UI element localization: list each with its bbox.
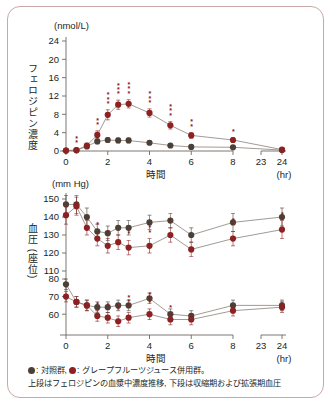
data-point [84, 302, 90, 308]
data-point [73, 299, 79, 305]
svg-text:*: * [169, 304, 172, 311]
caption-legend-line: : 対照群, : グレープフルーツジュース併用群。 [28, 365, 328, 378]
svg-text:0: 0 [63, 156, 68, 167]
svg-text:4: 4 [54, 127, 59, 138]
data-point [188, 144, 194, 150]
data-point [84, 142, 90, 148]
svg-text:8: 8 [230, 156, 235, 167]
data-point [126, 101, 132, 107]
data-point [167, 316, 173, 322]
svg-text:80: 80 [48, 273, 59, 284]
data-point [230, 308, 236, 314]
data-point [115, 318, 121, 324]
svg-text:120: 120 [43, 247, 59, 258]
data-point [63, 281, 69, 287]
data-point [94, 313, 100, 319]
svg-text:2: 2 [105, 156, 110, 167]
data-point [230, 137, 236, 143]
data-point [167, 232, 173, 238]
svg-text:12: 12 [48, 90, 59, 101]
data-point [279, 147, 285, 153]
svg-text:24: 24 [277, 340, 288, 351]
svg-text:*: * [107, 91, 110, 98]
svg-text:(mm Hg): (mm Hg) [52, 178, 89, 189]
data-point [94, 236, 100, 242]
data-point [188, 316, 194, 322]
data-point [73, 147, 79, 153]
svg-text:24: 24 [48, 35, 59, 46]
svg-text:6: 6 [189, 156, 194, 167]
svg-text:130: 130 [43, 229, 59, 240]
svg-text:血圧 (座位): 血圧 (座位) [27, 222, 38, 279]
svg-text:*: * [96, 221, 99, 228]
svg-text:*: * [75, 135, 78, 142]
data-point [63, 147, 69, 153]
data-point [126, 315, 132, 321]
svg-text:*: * [232, 128, 235, 135]
svg-text:*: * [128, 81, 131, 88]
svg-text:8: 8 [230, 340, 235, 351]
data-point [146, 243, 152, 249]
felodipine-concentration-chart: (nmol/L)04812162024024682324フェロジピン濃度****… [18, 15, 318, 175]
svg-text:8: 8 [54, 109, 59, 120]
data-point [84, 225, 90, 231]
svg-text:*: * [190, 118, 193, 125]
data-point [279, 304, 285, 310]
svg-text:0: 0 [54, 145, 59, 156]
data-point [146, 110, 152, 116]
svg-text:(nmol/L): (nmol/L) [54, 20, 89, 31]
felodipine-chart-svg: (nmol/L)04812162024024682324フェロジピン濃度****… [18, 15, 318, 175]
data-point [115, 225, 121, 231]
svg-text:16: 16 [48, 72, 59, 83]
data-point [167, 142, 173, 148]
svg-text:*: * [117, 82, 120, 89]
data-point [94, 132, 100, 138]
figure-caption: : 対照群, : グレープフルーツジュース併用群。 上段はフェロジピンの血漿中濃… [28, 365, 328, 390]
legend-grapefruit-label: : グレープフルーツジュース併用群。 [77, 366, 209, 375]
data-point [115, 137, 121, 143]
svg-text:*: * [96, 117, 99, 124]
data-point [105, 315, 111, 321]
data-point [73, 203, 79, 209]
data-point [188, 232, 194, 238]
svg-text:0: 0 [63, 340, 68, 351]
data-point [63, 212, 69, 218]
data-point [126, 137, 132, 143]
svg-text:時間: 時間 [146, 353, 166, 364]
svg-text:*: * [148, 90, 151, 97]
data-point [146, 140, 152, 146]
data-point [115, 239, 121, 245]
svg-text:2: 2 [105, 340, 110, 351]
data-point [115, 102, 121, 108]
svg-text:4: 4 [147, 156, 152, 167]
data-point [230, 144, 236, 150]
svg-text:23: 23 [256, 340, 267, 351]
svg-text:23: 23 [256, 156, 267, 167]
caption-description-line: 上段はフェロジピンの血漿中濃度推移, 下段は収縮期および拡張期血圧 [28, 378, 328, 391]
data-point [84, 214, 90, 220]
legend-control-label: : 対照群, [36, 366, 67, 375]
svg-text:24: 24 [277, 156, 288, 167]
data-point [188, 132, 194, 138]
svg-text:20: 20 [48, 54, 59, 65]
data-point [230, 236, 236, 242]
svg-text:4: 4 [147, 340, 152, 351]
data-point [188, 246, 194, 252]
data-point [63, 294, 69, 300]
figure-frame: (nmol/L)04812162024024682324フェロジピン濃度****… [7, 6, 324, 398]
svg-text:60: 60 [48, 309, 59, 320]
data-point [105, 112, 111, 118]
svg-text:*: * [148, 224, 151, 231]
svg-text:6: 6 [189, 340, 194, 351]
blood-pressure-chart: (mm Hg)110120130140150607080024682324血圧 … [18, 175, 318, 360]
data-point [279, 227, 285, 233]
svg-text:*: * [128, 230, 131, 237]
svg-text:*: * [169, 103, 172, 110]
data-point [126, 245, 132, 251]
svg-text:140: 140 [43, 211, 59, 222]
svg-text:(hr): (hr) [277, 353, 292, 364]
data-point [105, 137, 111, 143]
legend-control-dot-icon [28, 367, 35, 374]
svg-text:フェロジピン濃度: フェロジピン濃度 [27, 63, 38, 151]
blood-pressure-chart-svg: (mm Hg)110120130140150607080024682324血圧 … [18, 175, 318, 360]
